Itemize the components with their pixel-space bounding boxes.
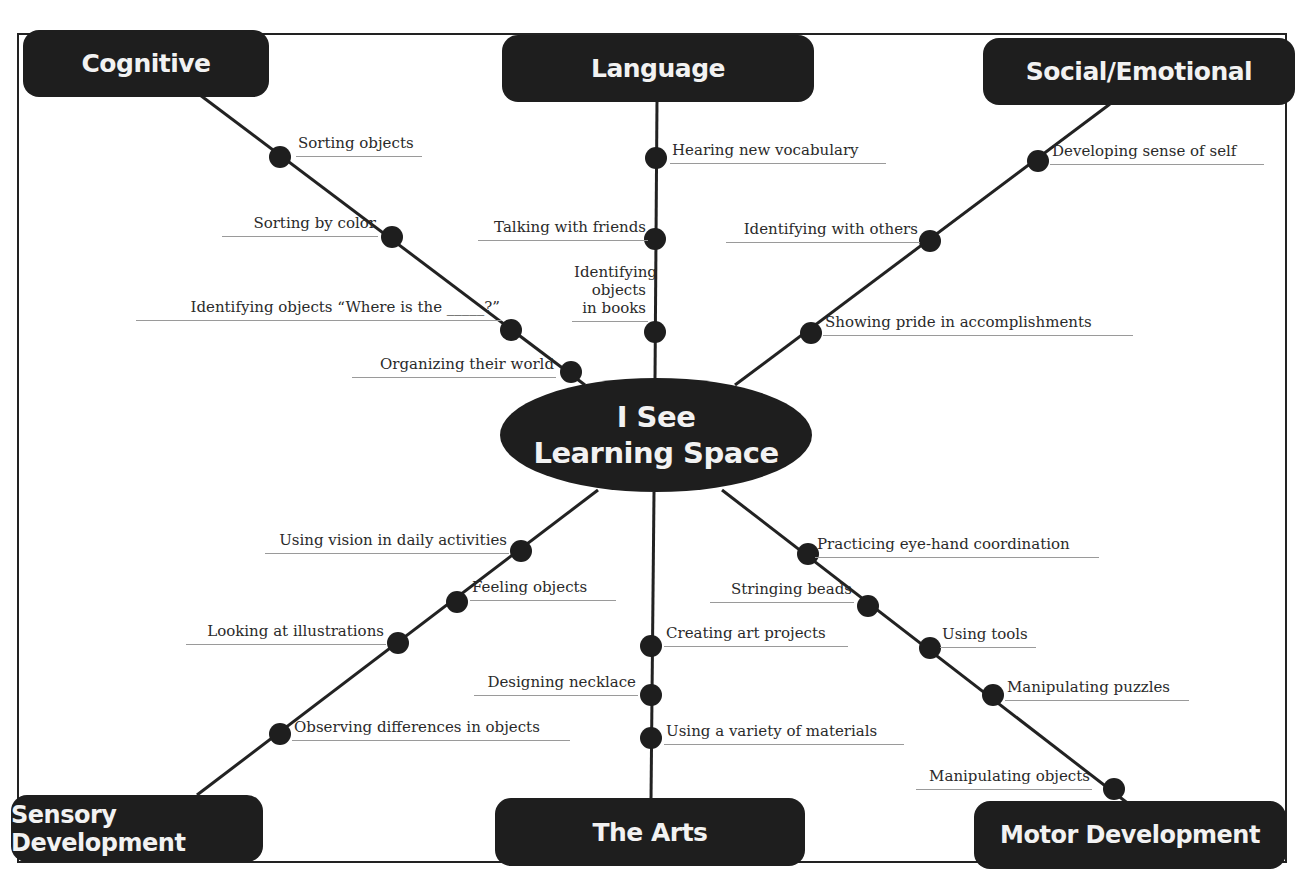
category-label: Sensory Development [11, 801, 263, 857]
node-dot [640, 684, 662, 706]
branch-label: Talking with friends [478, 218, 648, 241]
node-dot [982, 684, 1004, 706]
branch-label: Organizing their world [352, 355, 556, 378]
category-sensory-development: Sensory Development [11, 795, 263, 862]
branch-label: Stringing beads [710, 580, 854, 603]
node-dot [1103, 778, 1125, 800]
category-label: Social/Emotional [1026, 57, 1252, 86]
node-dot [381, 226, 403, 248]
category-label: Cognitive [81, 49, 210, 78]
category-label: The Arts [592, 818, 707, 847]
branch-label: Identifying objects “Where is the _____?… [136, 298, 502, 321]
node-dot [640, 635, 662, 657]
node-dot [510, 540, 532, 562]
node-dot [800, 322, 822, 344]
branch-label: Manipulating puzzles [1005, 678, 1189, 701]
branch-label: Manipulating objects [916, 767, 1092, 790]
node-dot [645, 147, 667, 169]
branch-label: Using tools [940, 625, 1036, 648]
node-dot [1027, 150, 1049, 172]
category-language: Language [502, 35, 814, 102]
branch-label: Practicing eye-hand coordination [815, 535, 1099, 558]
branch-label: Observing differences in objects [292, 718, 570, 741]
branch-label: Using a variety of materials [664, 722, 904, 745]
branch-label: Identifying objects in books [572, 263, 648, 322]
branch-label: Feeling objects [470, 578, 616, 601]
central-topic: I See Learning Space [500, 378, 812, 492]
category-label: Language [591, 54, 725, 83]
category-social-emotional: Social/Emotional [983, 38, 1295, 105]
node-dot [560, 361, 582, 383]
node-dot [919, 230, 941, 252]
branch-label: Looking at illustrations [186, 622, 386, 645]
branch-label: Using vision in daily activities [265, 531, 509, 554]
branch-label: Designing necklace [474, 673, 638, 696]
node-dot [857, 595, 879, 617]
node-dot [387, 632, 409, 654]
mind-map: Cognitive Language Social/Emotional Sens… [0, 0, 1302, 877]
category-cognitive: Cognitive [23, 30, 269, 97]
central-topic-line2: Learning Space [533, 435, 778, 471]
category-label: Motor Development [1000, 821, 1260, 849]
branch-label: Developing sense of self [1050, 142, 1264, 165]
node-dot [640, 727, 662, 749]
node-dot [500, 319, 522, 341]
node-dot [269, 146, 291, 168]
central-topic-line1: I See [617, 399, 696, 435]
node-dot [269, 723, 291, 745]
node-dot [644, 321, 666, 343]
category-the-arts: The Arts [495, 798, 805, 866]
branch-label: Hearing new vocabulary [670, 141, 886, 164]
branch-label: Sorting objects [296, 134, 422, 157]
branch-label: Showing pride in accomplishments [823, 313, 1133, 336]
branch-label: Sorting by color [222, 214, 378, 237]
node-dot [919, 637, 941, 659]
node-dot [446, 591, 468, 613]
branch-label: Creating art projects [664, 624, 848, 647]
category-motor-development: Motor Development [974, 801, 1286, 869]
branch-label: Identifying with others [726, 220, 920, 243]
